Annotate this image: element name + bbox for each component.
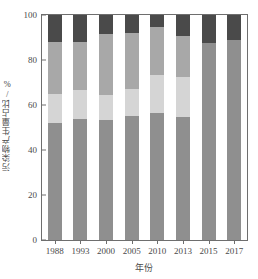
x-axis-tick-label: 2013 — [174, 246, 192, 256]
x-axis-tick-mark — [132, 240, 133, 244]
bar-segment — [99, 15, 113, 34]
y-axis-tick-mark — [42, 60, 46, 61]
x-axis-tick-label: 1988 — [46, 246, 64, 256]
y-axis-tick-label: 100 — [24, 10, 43, 20]
bar-segment — [125, 15, 139, 33]
bar-segment — [99, 120, 113, 240]
bar-segment — [73, 42, 87, 90]
x-axis-tick-mark — [183, 240, 184, 244]
y-axis-tick-label: 0 — [33, 235, 43, 245]
x-axis-tick-label: 2010 — [148, 246, 166, 256]
bar-segment — [176, 77, 190, 118]
bar-segment — [150, 75, 164, 113]
bar-segment — [227, 15, 241, 40]
bar-segment — [150, 15, 164, 27]
bar-segment — [202, 43, 216, 240]
x-axis-label: 年份 — [41, 261, 246, 274]
bar — [150, 15, 164, 240]
bar-segment — [150, 113, 164, 240]
bar-segment — [202, 15, 216, 43]
bar-segment — [73, 119, 87, 241]
bar-segment — [125, 33, 139, 89]
bar-segment — [176, 36, 190, 77]
bar — [125, 15, 139, 240]
bar-segment — [176, 117, 190, 240]
bar-segment — [99, 95, 113, 120]
x-axis-tick-mark — [234, 240, 235, 244]
x-axis-tick-label: 1993 — [71, 246, 89, 256]
y-axis-tick-label: 40 — [28, 145, 42, 155]
y-axis-tick-label: 20 — [28, 190, 42, 200]
y-axis-tick-mark — [42, 240, 46, 241]
y-axis-tick-label: 60 — [28, 100, 42, 110]
plot-area: 0204060801001988199320002005201020132015… — [41, 14, 248, 241]
bar-segment — [73, 15, 87, 42]
stacked-bar-chart: 污染物产生量占比/% 02040608010019881993200020052… — [0, 0, 258, 279]
x-axis-tick-label: 2017 — [225, 246, 243, 256]
x-axis-tick-mark — [80, 240, 81, 244]
y-axis-tick-mark — [42, 195, 46, 196]
bar-segment — [125, 116, 139, 240]
x-axis-tick-mark — [106, 240, 107, 244]
bar-segment — [99, 34, 113, 95]
bar-segment — [48, 94, 62, 123]
x-axis-tick-mark — [157, 240, 158, 244]
bar-segment — [48, 15, 62, 42]
bar — [99, 15, 113, 240]
bar-segment — [48, 123, 62, 240]
bar — [227, 15, 241, 240]
bar — [48, 15, 62, 240]
y-axis-tick-mark — [42, 105, 46, 106]
bar-segment — [73, 90, 87, 118]
y-axis-label: 污染物产生量占比/% — [1, 60, 15, 190]
bar-segment — [227, 40, 241, 240]
x-axis-tick-label: 2005 — [123, 246, 141, 256]
bar — [176, 15, 190, 240]
x-axis-tick-mark — [209, 240, 210, 244]
y-axis-tick-mark — [42, 150, 46, 151]
y-axis-tick-mark — [42, 15, 46, 16]
bar-segment — [48, 42, 62, 94]
bar — [73, 15, 87, 240]
x-axis-tick-label: 2000 — [97, 246, 115, 256]
bar-segment — [125, 89, 139, 116]
bar-segment — [150, 27, 164, 74]
y-axis-tick-label: 80 — [28, 55, 42, 65]
x-axis-tick-mark — [55, 240, 56, 244]
x-axis-tick-label: 2015 — [200, 246, 218, 256]
bar — [202, 15, 216, 240]
bar-segment — [176, 15, 190, 36]
